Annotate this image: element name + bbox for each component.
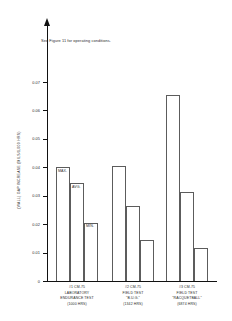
bar-label-group1-max: MAX.: [58, 169, 68, 173]
y-tick-label-6-wrap: 0.06: [18, 108, 40, 114]
chart-figure: See Figure 11 for operating conditions. …: [0, 0, 232, 321]
y-tick-label-1: 0.01: [32, 250, 40, 255]
y-tick-label-5-wrap: 0.05: [18, 136, 40, 142]
bar-group3-max: [166, 95, 180, 281]
y-axis-line: [47, 24, 48, 281]
x-axis-group-label-3: #3 CM-75 FIELD TEST "RACQUETBALL" (6874 …: [151, 285, 223, 307]
y-tick-label-0-wrap: 0: [18, 279, 40, 285]
y-tick-label-2: 0.02: [32, 222, 40, 227]
y-tick-label-7: 0.07: [32, 80, 40, 85]
bar-group2-min: [140, 240, 154, 281]
y-tick-label-4-wrap: 0.04: [18, 165, 40, 171]
bar-group1-avg: [70, 183, 84, 281]
y-tick-7: [43, 82, 47, 83]
y-tick-label-4: 0.04: [32, 165, 40, 170]
y-tick-label-1-wrap: 0.01: [18, 250, 40, 256]
bar-label-group1-avg: AVG.: [72, 185, 82, 189]
bar-group2-max: [112, 166, 126, 281]
y-tick-label-7-wrap: 0.07: [18, 80, 40, 86]
y-tick-label-3-wrap: 0.03: [18, 193, 40, 199]
y-tick-label-5: 0.05: [32, 136, 40, 141]
group3-caption-line-4: (6874 HRS): [151, 302, 223, 308]
y-tick-label-6: 0.06: [32, 108, 40, 113]
y-tick-1: [43, 253, 47, 254]
figure-note: See Figure 11 for operating conditions.: [41, 38, 111, 43]
y-tick-6: [43, 110, 47, 111]
y-tick-0: [43, 281, 47, 282]
y-tick-label-2-wrap: 0.02: [18, 222, 40, 228]
y-tick-label-0: 0: [38, 279, 40, 284]
x-axis-line: [47, 281, 217, 282]
y-tick-4: [43, 167, 47, 168]
bar-group1-min: [84, 223, 98, 281]
y-tick-5: [43, 139, 47, 140]
y-axis-arrow-icon: [44, 18, 50, 26]
bar-group3-avg: [180, 192, 194, 282]
bar-group3-min: [194, 248, 208, 281]
bar-group2-avg: [126, 206, 140, 281]
bar-group1-max: [56, 167, 70, 281]
bar-label-group1-min: MIN.: [86, 224, 95, 228]
y-tick-2: [43, 224, 47, 225]
y-tick-label-3: 0.03: [32, 193, 40, 198]
y-tick-3: [43, 196, 47, 197]
